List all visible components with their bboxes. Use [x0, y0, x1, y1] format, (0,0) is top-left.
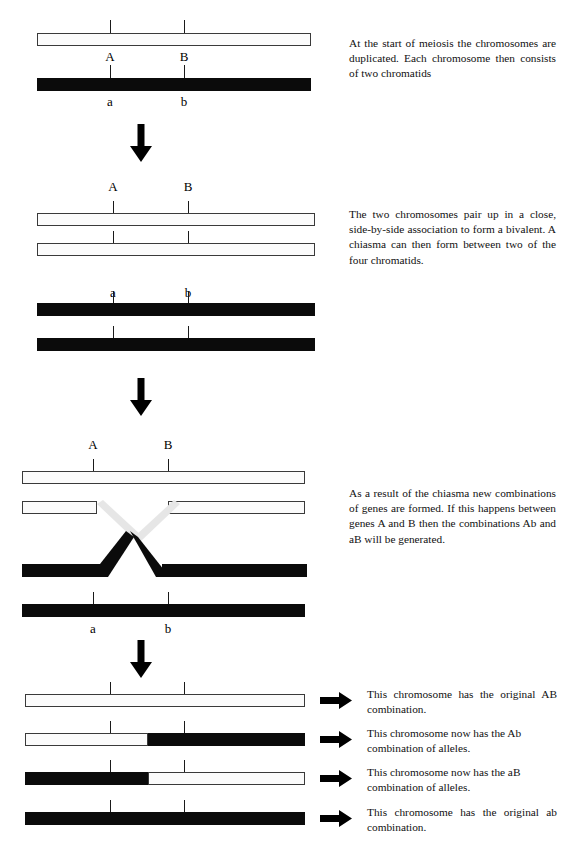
- gene-label-A-stage1: A: [103, 50, 117, 63]
- stage1-white-chromatid: [37, 33, 311, 46]
- right-arrow-icon-3: [320, 770, 352, 787]
- product-aB-black-segment: [25, 772, 148, 785]
- stage2-black-chromatid-1: [37, 303, 315, 316]
- down-arrow-icon-3: [128, 640, 154, 678]
- product-chromosome-ab: [25, 812, 305, 825]
- product-Ab-black-segment: [148, 733, 305, 746]
- gene-label-b-stage3: b: [161, 622, 175, 635]
- product-caption-aB: This chromosome now has the aB combinati…: [367, 765, 557, 795]
- right-arrow-icon-2: [320, 731, 352, 748]
- gene-tick-b-product4: [184, 800, 185, 812]
- right-arrow-icon-4: [320, 810, 352, 827]
- gene-tick-A-stage1: [110, 20, 111, 34]
- gene-tick-B-product3: [184, 760, 185, 772]
- product-chromosome-aB: [25, 772, 305, 785]
- gene-label-b-stage1: b: [177, 95, 191, 108]
- gene-label-B-stage2: B: [181, 180, 195, 193]
- stage2-white-chromatid-2: [37, 243, 315, 256]
- gene-tick-A-product2: [110, 721, 111, 733]
- product-Ab-white-segment: [25, 733, 148, 746]
- stage3-white-chromatid-uncrossed: [22, 471, 305, 484]
- gene-label-A-stage3: A: [86, 438, 100, 451]
- stage3-caption: As a result of the chiasma new combinati…: [349, 486, 556, 547]
- product-caption-Ab: This chromosome now has the Ab combinati…: [367, 726, 557, 756]
- stage2-black-chromatid-2: [37, 338, 315, 351]
- gene-tick-A-product1: [110, 682, 111, 694]
- down-arrow-icon-1: [128, 124, 154, 162]
- gene-label-B-stage3: B: [161, 438, 175, 451]
- gene-tick-a-product3: [110, 760, 111, 772]
- gene-label-a-stage1: a: [103, 95, 117, 108]
- product-chromosome-AB: [25, 694, 305, 707]
- stage2-white-chromatid-1: [37, 213, 315, 226]
- gene-tick-a-stage1: [110, 65, 111, 79]
- stage3-black-chromatid-uncrossed: [22, 604, 305, 617]
- down-arrow-icon-2: [128, 378, 154, 416]
- product-caption-AB: This chromosome has the original AB comb…: [367, 687, 557, 717]
- gene-label-B-stage1: B: [177, 50, 191, 63]
- product-aB-white-segment: [148, 772, 305, 785]
- stage1-caption: At the start of meiosis the chromosomes …: [349, 36, 556, 82]
- gene-tick-b-product2: [184, 721, 185, 733]
- meiosis-diagram: A B a b At the start of meiosis the chro…: [0, 0, 569, 865]
- gene-label-A-stage2: A: [106, 180, 120, 193]
- chiasma-crossover-black-chromatid: [22, 525, 312, 585]
- gene-tick-B-stage1: [184, 20, 185, 34]
- gene-tick-b-stage1: [184, 65, 185, 79]
- stage2-caption: The two chromosomes pair up in a close, …: [349, 207, 556, 268]
- gene-tick-B-product1: [184, 682, 185, 694]
- gene-tick-a-product4: [110, 800, 111, 812]
- gene-label-a-stage3: a: [86, 622, 100, 635]
- product-caption-ab: This chromosome has the original ab comb…: [367, 805, 557, 835]
- product-chromosome-Ab: [25, 733, 305, 746]
- right-arrow-icon-1: [320, 692, 352, 709]
- stage1-black-chromatid: [37, 78, 311, 91]
